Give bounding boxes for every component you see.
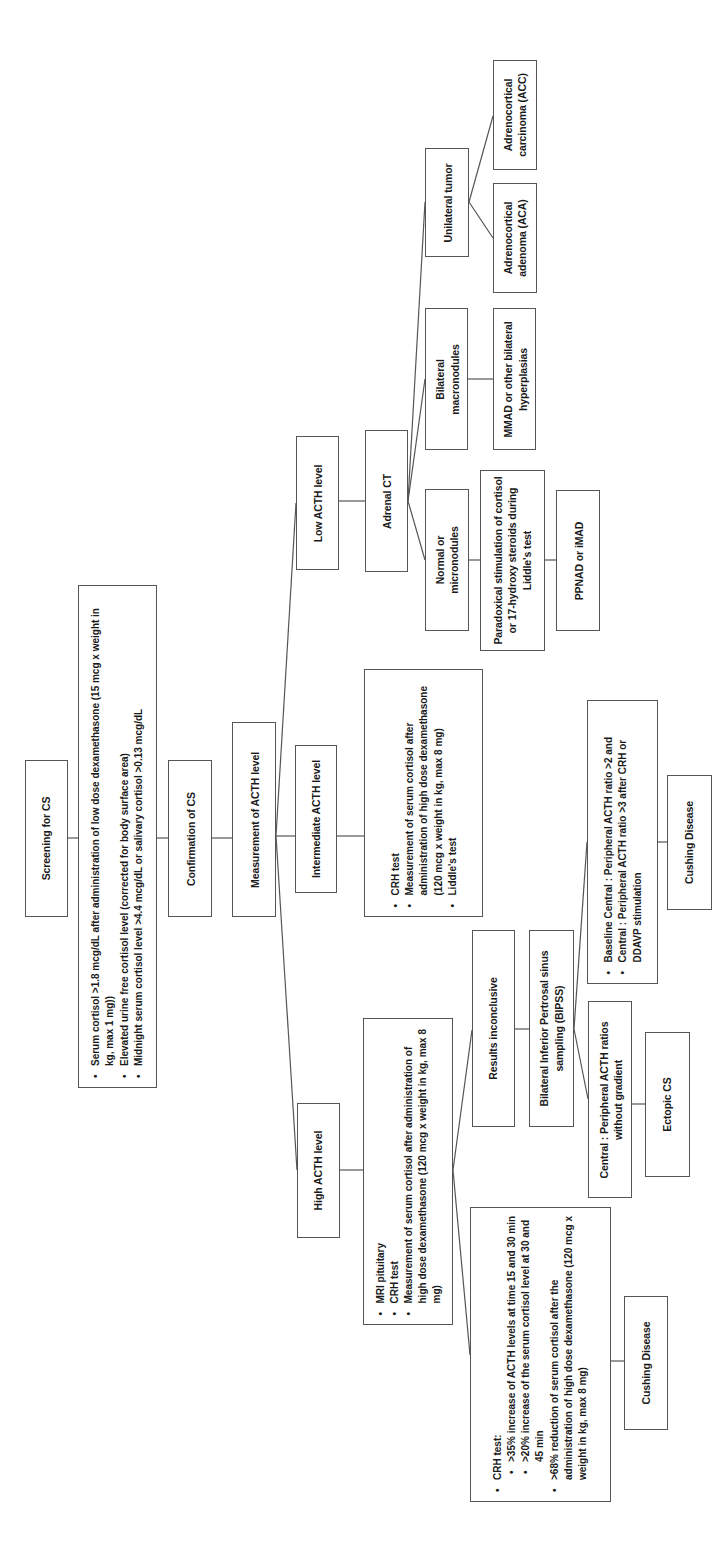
paradoxical-box: Paradoxical stimulation of cortisol or 1… [480,470,545,651]
high-tests-list: MRI pituitary CRH test Measurement of se… [373,1026,444,1317]
ectopic-cs-label: Ectopic CS [660,1077,674,1131]
bipss-positive-box: Baseline Central : Peripheral ACTH ratio… [587,700,658,984]
normal-micronodules-box: Normal or micronodules [425,489,469,631]
confirmation-label: Confirmation of CS [183,792,197,886]
results-inconclusive-label: Results inconclusive [486,977,500,1079]
bipss-positive-list: Baseline Central : Peripheral ACTH ratio… [601,708,644,976]
crh-criteria-box: CRH test: >35% increase of ACTH levels a… [470,1207,611,1502]
unilateral-tumor-box: Unilateral tumor [425,148,469,257]
criterion-item: Central : Peripheral ACTH ratio >3 after… [615,708,643,962]
crh-sub-item: >35% increase of ACTH levels at time 15 … [505,1215,519,1462]
mmad-label: MMAD or other bilateral hyperplasias [500,308,528,450]
edge-bipss-negative [574,1029,588,1099]
bilateral-macronodules-label: Bilateral macronodules [432,334,460,424]
acc-box: Adrenocortical carcinoma (ACC) [493,60,537,170]
results-inconclusive-box: Results inconclusive [472,930,515,1127]
edge-measurement-high [276,836,297,1170]
cushing-disease-bipss-label: Cushing Disease [682,801,696,884]
criteria-item: Serum cortisol >1.8 mcg/dL after adminis… [89,593,117,1066]
criteria-item: Midnight serum cortisol level >4.4 mcg/d… [132,593,146,1066]
edge-unilateral-aca [469,202,493,238]
test-item: Measurement of serum cortisol after admi… [401,1026,444,1303]
adrenal-ct-box: Adrenal CT [365,430,408,572]
crh-heading-item: CRH test: >35% increase of ACTH levels a… [491,1215,548,1480]
intermediate-tests-list: CRH test Measurement of serum cortisol a… [388,677,459,909]
intermediate-acth-label: Intermediate ACTH level [309,760,323,878]
adrenal-ct-label: Adrenal CT [379,474,393,529]
crh-sub-item: >20% increase of the serum cortisol leve… [519,1215,547,1462]
bilateral-macronodules-box: Bilateral macronodules [425,308,468,450]
ectopic-cs-box: Ectopic CS [645,1032,690,1177]
mmad-box: MMAD or other bilateral hyperplasias [493,308,536,450]
test-item: Measurement of serum cortisol after admi… [402,677,445,895]
unilateral-tumor-label: Unilateral tumor [440,163,454,242]
high-tests-box: MRI pituitary CRH test Measurement of se… [363,1018,453,1325]
bipss-negative-box: Central : Peripheral ACTH ratios without… [588,1001,632,1198]
edge-tests-inconclusive [453,1030,472,1170]
cushing-disease-crh-label: Cushing Disease [639,1321,653,1404]
high-acth-label: High ACTH level [311,1131,325,1211]
ppnad-label: PPNAD or iMAD [571,521,585,600]
test-item: CRH test [388,677,402,895]
edge-measurement-low [276,503,296,836]
crh-sub-list: >35% increase of ACTH levels at time 15 … [505,1215,548,1480]
test-item: CRH test [387,1026,401,1303]
normal-micronodules-label: Normal or micronodules [433,520,461,600]
screening-box: Screening for CS [25,760,68,917]
edge-adrenalct-normal [408,501,425,560]
cushing-disease-crh-box: Cushing Disease [624,1296,668,1430]
paradoxical-label: Paradoxical stimulation of cortisol or 1… [491,476,534,645]
edge-adrenalct-bilateral [408,379,425,501]
acc-label: Adrenocortical carcinoma (ACC) [501,60,529,170]
confirmation-box: Confirmation of CS [168,760,212,917]
aca-label: Adrenocortical adenoma (ACA) [501,183,529,293]
edge-tests-crh [453,1170,470,1355]
crh-item: >68% reduction of serum cortisol after t… [548,1215,591,1480]
aca-box: Adrenocortical adenoma (ACA) [493,183,537,293]
measurement-box: Measurement of ACTH level [232,722,276,917]
test-item: Liddle's test [445,677,459,895]
bipss-label: Bilateral Inferior Pertrosal sinus sampl… [537,936,565,1121]
edge-unilateral-acc [469,116,493,202]
criterion-item: Baseline Central : Peripheral ACTH ratio… [601,708,615,962]
cushing-disease-bipss-box: Cushing Disease [667,775,712,910]
ppnad-box: PPNAD or iMAD [556,490,600,631]
intermediate-tests-box: CRH test Measurement of serum cortisol a… [364,669,483,917]
measurement-label: Measurement of ACTH level [247,752,261,888]
screening-label: Screening for CS [39,797,53,881]
bipss-negative-label: Central : Peripheral ACTH ratios without… [596,1007,624,1192]
test-item: MRI pituitary [373,1026,387,1303]
edge-bipss-positive [574,842,587,1029]
screening-criteria-list: Serum cortisol >1.8 mcg/dL after adminis… [89,593,146,1080]
intermediate-acth-box: Intermediate ACTH level [295,745,337,893]
screening-criteria-box: Serum cortisol >1.8 mcg/dL after adminis… [78,585,157,1088]
criteria-item: Elevated urine free cortisol level (corr… [118,593,132,1066]
crh-criteria-list: CRH test: >35% increase of ACTH levels a… [491,1215,590,1494]
low-acth-box: Low ACTH level [296,436,339,570]
low-acth-label: Low ACTH level [310,464,324,542]
crh-heading: CRH test: [492,1434,503,1480]
bipss-box: Bilateral Inferior Pertrosal sinus sampl… [529,930,574,1127]
edge-adrenalct-unilateral [408,202,425,501]
high-acth-box: High ACTH level [297,1103,340,1238]
